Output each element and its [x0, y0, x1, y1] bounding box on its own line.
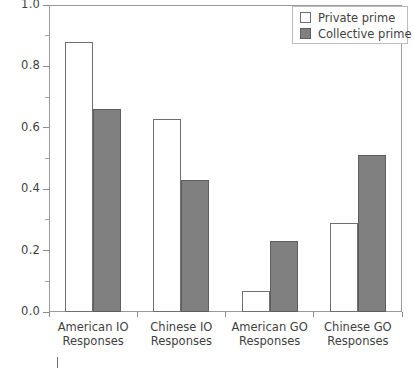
- caption-fragment-ghost: [0, 355, 414, 371]
- x-group-label-line: Responses: [314, 334, 402, 348]
- y-tick-minor: [45, 35, 49, 36]
- legend: Private prime Collective prime: [292, 6, 408, 44]
- y-tick-minor: [45, 97, 49, 98]
- caption-rule: [57, 357, 58, 368]
- y-tick-label: 1.0: [21, 0, 40, 11]
- y-tick-major: [43, 66, 49, 67]
- legend-swatch-collective-prime: [300, 28, 311, 39]
- y-tick-major: [43, 5, 49, 6]
- x-group-label-line: Responses: [226, 334, 314, 348]
- x-tick: [137, 312, 138, 317]
- x-group-label-line: Responses: [137, 334, 225, 348]
- x-tick: [49, 312, 50, 317]
- x-group-label-line: Chinese IO: [137, 320, 225, 334]
- x-group-label-line: American IO: [49, 320, 137, 334]
- y-tick-label: 0.6: [21, 122, 40, 134]
- x-group-label-line: American GO: [226, 320, 314, 334]
- y-tick-label: 0.4: [21, 183, 40, 195]
- x-group-label-line: Responses: [49, 334, 137, 348]
- bar-private-prime: [65, 42, 93, 312]
- legend-item-private-prime: Private prime: [300, 10, 395, 25]
- y-tick-minor: [45, 158, 49, 159]
- y-tick-major: [43, 189, 49, 190]
- bar-private-prime: [330, 223, 358, 312]
- bar-collective-prime: [181, 180, 209, 312]
- x-group-label: American IOResponses: [49, 320, 137, 348]
- x-group-label: American GOResponses: [226, 320, 314, 348]
- bar-collective-prime: [270, 241, 298, 312]
- x-group-label-line: Chinese GO: [314, 320, 402, 334]
- y-tick-minor: [45, 219, 49, 220]
- y-tick-label: 0.2: [21, 245, 40, 257]
- legend-swatch-private-prime: [300, 12, 311, 23]
- x-group-label: Chinese IOResponses: [137, 320, 225, 348]
- y-tick-major: [43, 127, 49, 128]
- y-tick-minor: [45, 281, 49, 282]
- y-tick-major: [43, 250, 49, 251]
- y-tick-label: 0.0: [21, 306, 40, 318]
- legend-label-private-prime: Private prime: [318, 12, 395, 24]
- bar-collective-prime: [93, 109, 121, 312]
- y-axis: 0.00.20.40.60.81.0: [0, 0, 49, 312]
- legend-label-collective-prime: Collective prime: [318, 28, 412, 40]
- x-tick: [225, 312, 226, 317]
- y-tick-label: 0.8: [21, 60, 40, 72]
- bar-collective-prime: [358, 155, 386, 312]
- x-tick: [402, 312, 403, 317]
- bar-chart-figure: 0.00.20.40.60.81.0 American IOResponsesC…: [0, 0, 414, 371]
- bar-private-prime: [242, 291, 270, 312]
- bar-private-prime: [153, 119, 181, 312]
- x-tick: [313, 312, 314, 317]
- x-group-label: Chinese GOResponses: [314, 320, 402, 348]
- legend-item-collective-prime: Collective prime: [300, 26, 412, 41]
